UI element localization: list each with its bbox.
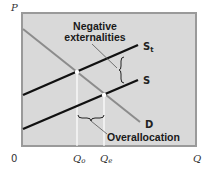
st-base: S <box>143 41 150 52</box>
market-equilibrium-point <box>102 93 106 97</box>
q0-label: Qo <box>73 153 85 165</box>
qe-base: Q <box>100 153 108 164</box>
origin-label: 0 <box>11 153 17 164</box>
s-curve-label: S <box>143 75 150 86</box>
negative-externalities-label-line2: externalities <box>64 31 125 43</box>
quantity-axis-label: Q <box>193 153 201 164</box>
price-axis-label: P <box>10 2 18 13</box>
qe-subscript: e <box>108 157 112 165</box>
d-curve-label: D <box>145 119 153 130</box>
optimal-equilibrium-point <box>75 70 79 74</box>
qe-label: Qe <box>100 153 112 165</box>
q0-subscript: o <box>81 157 85 165</box>
q0-base: Q <box>73 153 81 164</box>
externality-diagram: Negative externalities Overallocation St… <box>0 0 205 179</box>
overallocation-label: Overallocation <box>107 131 180 143</box>
